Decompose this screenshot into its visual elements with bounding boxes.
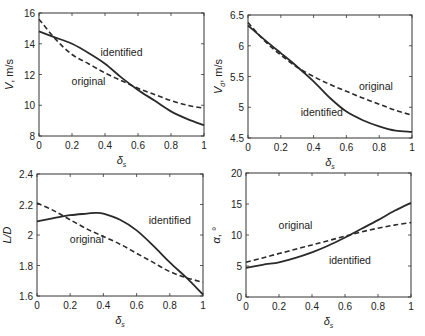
x-axis-label: δs: [324, 315, 334, 329]
y-tick-label: 5.5: [230, 72, 244, 83]
y-tick-label: 2.4: [19, 169, 33, 180]
x-tick-label: 0.4: [98, 140, 112, 151]
y-tick-label: 5: [238, 102, 244, 113]
axes-box: [37, 174, 203, 296]
y-tick-label: 1.8: [19, 261, 33, 272]
y-axis-label: α, °: [210, 227, 222, 244]
x-tick-label: 0.8: [164, 140, 178, 151]
axes-box: [39, 13, 204, 136]
x-tick-label: 0.2: [65, 140, 79, 151]
x-tick-label: 0.8: [372, 142, 386, 153]
x-tick-label: 0.6: [131, 140, 145, 151]
y-tick-label: 0: [236, 292, 242, 303]
series-original: [39, 19, 204, 108]
x-tick-label: 0.8: [371, 301, 385, 312]
x-tick-label: 0: [245, 142, 251, 153]
x-tick-label: 1: [408, 301, 414, 312]
annotation-identified: identified: [329, 254, 371, 266]
annotation-identified: identified: [100, 46, 142, 58]
annotation-original: original: [72, 75, 106, 87]
x-tick-label: 0.4: [307, 142, 321, 153]
x-tick-label: 0.2: [274, 142, 288, 153]
annotation-original: original: [359, 80, 393, 92]
y-tick-label: 10: [24, 100, 36, 111]
x-tick-label: 0.4: [96, 300, 110, 311]
x-tick-label: 0.6: [339, 142, 353, 153]
x-tick-label: 0.6: [130, 300, 144, 311]
y-tick-label: 6: [238, 41, 244, 52]
y-tick-label: 8: [29, 131, 35, 142]
x-tick-label: 1: [409, 142, 415, 153]
y-tick-label: 15: [231, 199, 243, 210]
y-axis-label: L/D: [1, 226, 13, 243]
subplot-top-right: 00.20.40.60.814.555.566.5δsVd, m/sorigin…: [212, 10, 415, 170]
axes-box: [246, 173, 411, 297]
y-tick-label: 1.6: [19, 291, 33, 302]
y-axis-label: Vd, m/s: [212, 58, 226, 94]
subplot-top-left: 00.20.40.60.81810121416δsV, m/sidentifie…: [3, 8, 207, 168]
x-axis-label: δs: [117, 154, 127, 168]
x-axis-label: δs: [325, 156, 335, 170]
x-tick-label: 0.2: [63, 300, 77, 311]
y-tick-label: 2.2: [19, 200, 33, 211]
annotation-identified: identified: [149, 214, 191, 226]
x-tick-label: 0.6: [338, 301, 352, 312]
annotation-original: original: [279, 219, 313, 231]
annotation-original: original: [70, 233, 104, 245]
y-tick-label: 2: [27, 230, 33, 241]
subplot-bottom-right: 00.20.40.60.8105101520δsα, °originaliden…: [210, 168, 414, 329]
y-tick-label: 16: [24, 8, 36, 19]
x-tick-label: 0: [36, 140, 42, 151]
y-tick-label: 4.5: [230, 133, 244, 144]
x-tick-label: 0: [34, 300, 40, 311]
x-tick-label: 0.8: [163, 300, 177, 311]
x-tick-label: 1: [201, 140, 207, 151]
figure: 00.20.40.60.81810121416δsV, m/sidentifie…: [0, 0, 425, 336]
subplot-bottom-left: 00.20.40.60.811.61.822.22.4δsL/Didentifi…: [1, 169, 206, 328]
axes-box: [248, 15, 412, 138]
x-tick-label: 0.4: [305, 301, 319, 312]
x-tick-label: 1: [200, 300, 206, 311]
y-tick-label: 6.5: [230, 10, 244, 21]
series-original: [248, 22, 412, 115]
annotation-identified: identified: [301, 106, 343, 118]
x-tick-label: 0.2: [272, 301, 286, 312]
y-axis-label: V, m/s: [3, 58, 15, 90]
x-axis-label: δs: [115, 314, 125, 328]
y-tick-label: 20: [231, 168, 243, 179]
y-tick-label: 12: [24, 70, 36, 81]
y-tick-label: 10: [231, 230, 243, 241]
x-tick-label: 0: [243, 301, 249, 312]
y-tick-label: 14: [24, 39, 36, 50]
y-tick-label: 5: [236, 261, 242, 272]
